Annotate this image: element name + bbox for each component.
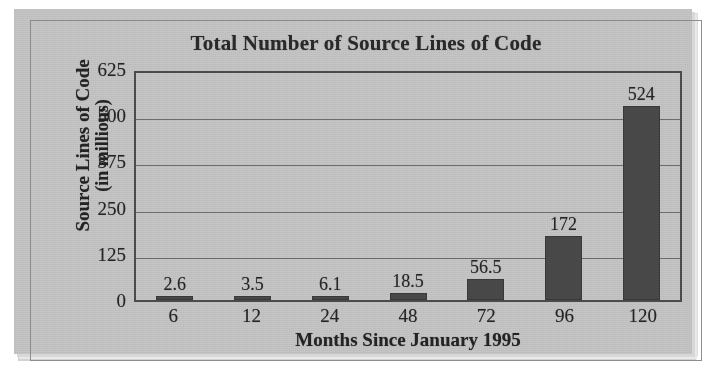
scanned-page: Total Number of Source Lines of Code Sou… [0, 0, 711, 380]
bar-value-label: 56.5 [446, 257, 526, 278]
bar-value-label: 18.5 [368, 271, 448, 292]
y-axis-tick-label: 625 [64, 59, 126, 81]
bar[interactable] [467, 279, 504, 300]
bar-value-label: 6.1 [290, 274, 370, 295]
x-axis-tick-label: 24 [291, 305, 369, 331]
plot-area: 2.63.56.118.556.5172524 [134, 71, 682, 302]
bar-slot: 3.5 [214, 73, 292, 300]
chart-page: Total Number of Source Lines of Code Sou… [14, 9, 692, 354]
x-axis-tick-label: 48 [369, 305, 447, 331]
x-axis-tick-label: 72 [447, 305, 525, 331]
bar-value-label: 524 [601, 84, 681, 105]
y-axis-tick-label: 0 [64, 290, 126, 312]
bar[interactable] [545, 236, 582, 300]
bar-slot: 524 [602, 73, 680, 300]
bar-slot: 56.5 [447, 73, 525, 300]
x-axis-label: Months Since January 1995 [134, 329, 682, 351]
x-axis-ticks: 61224487296120 [134, 305, 682, 331]
bar-value-label: 3.5 [213, 274, 293, 295]
bar-value-label: 172 [523, 214, 603, 235]
bar-slot: 18.5 [369, 73, 447, 300]
x-axis-tick-label: 12 [212, 305, 290, 331]
bar-slot: 2.6 [136, 73, 214, 300]
x-axis-tick-label: 6 [134, 305, 212, 331]
bar[interactable] [390, 293, 427, 300]
x-axis-tick-label: 120 [604, 305, 682, 331]
bar[interactable] [234, 296, 271, 300]
bar-series: 2.63.56.118.556.5172524 [136, 73, 680, 300]
y-axis-tick-label: 375 [64, 151, 126, 173]
bar-slot: 172 [525, 73, 603, 300]
y-axis-tick-label: 250 [64, 198, 126, 220]
bar-value-label: 2.6 [135, 274, 215, 295]
bar[interactable] [156, 296, 193, 300]
bar[interactable] [312, 296, 349, 300]
bar-slot: 6.1 [291, 73, 369, 300]
y-axis-tick-label: 500 [64, 105, 126, 127]
bar[interactable] [623, 106, 660, 300]
y-axis-tick-label: 125 [64, 244, 126, 266]
x-axis-tick-label: 96 [525, 305, 603, 331]
chart-title: Total Number of Source Lines of Code [30, 31, 702, 56]
